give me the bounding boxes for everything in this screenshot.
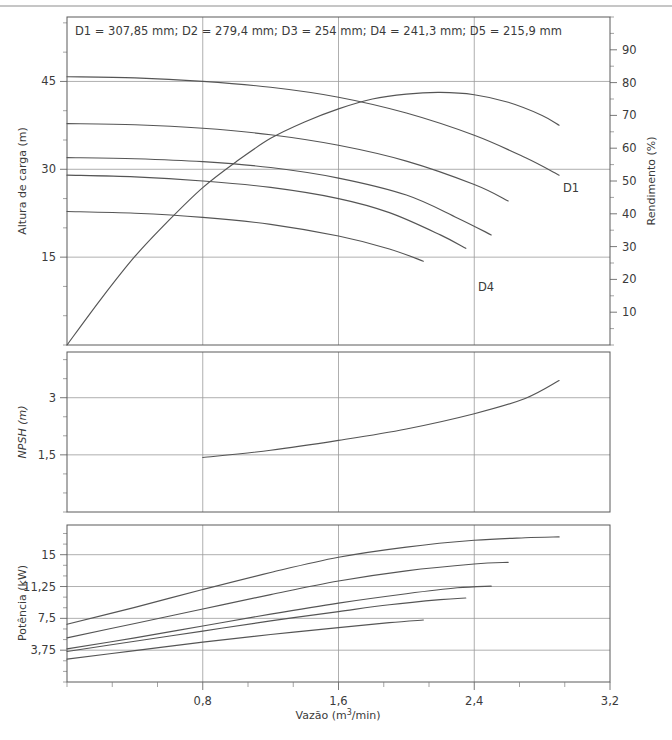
curve-label-d4: D4: [478, 280, 494, 294]
panel-power-ticks: [60, 533, 67, 682]
power-tick-7-5: 7,5: [38, 611, 56, 625]
head-tick-45: 45: [41, 74, 56, 88]
panel-npsh-ticks: [60, 360, 67, 512]
panel-npsh: NPSH (m) 1,53: [16, 352, 610, 512]
efficiency-tick-30: 30: [622, 240, 637, 254]
panel-npsh-curves: [203, 381, 559, 458]
x-axis-title: Vazão (m3/min): [295, 708, 380, 722]
panel-power: Potência (kW) 3,757,511,2515: [16, 525, 610, 682]
x-axis-title-main: Vazão (m: [295, 709, 346, 722]
npsh-axis-tick-labels: 1,53: [38, 391, 56, 462]
curve-head-rendimento: [67, 92, 559, 345]
impeller-diameter-note: D1 = 307,85 mm; D2 = 279,4 mm; D3 = 254 …: [75, 24, 562, 38]
npsh-tick-1-5: 1,5: [38, 448, 56, 462]
efficiency-tick-90: 90: [622, 43, 637, 57]
x-axis-ticks: [67, 682, 610, 690]
curve-head-d5: [67, 211, 423, 261]
x-tick-3-2: 3,2: [601, 694, 619, 708]
power-axis-title: Potência (kW): [16, 565, 29, 641]
power-tick-15: 15: [41, 548, 56, 562]
x-tick-1-6: 1,6: [329, 694, 347, 708]
head-axis-title: Altura de carga (m): [16, 127, 29, 235]
x-axis: 0,81,62,43,2 Vazão (m3/min): [67, 682, 619, 722]
curve-npsh-npsh: [203, 381, 559, 458]
curve-power-d3: [67, 586, 491, 649]
chart-svg: D1 = 307,85 mm; D2 = 279,4 mm; D3 = 254 …: [0, 0, 672, 740]
pump-performance-chart: D1 = 307,85 mm; D2 = 279,4 mm; D3 = 254 …: [0, 0, 672, 740]
head-axis-tick-labels: 153045: [41, 74, 56, 264]
efficiency-tick-60: 60: [622, 141, 637, 155]
npsh-axis-title: NPSH (m): [16, 406, 29, 459]
panel-head: D1 = 307,85 mm; D2 = 279,4 mm; D3 = 254 …: [16, 17, 658, 345]
panel-power-curves: [67, 537, 559, 659]
curve-power-d5: [67, 620, 423, 659]
efficiency-tick-80: 80: [622, 76, 637, 90]
curve-power-d1: [67, 537, 559, 624]
head-tick-30: 30: [41, 162, 56, 176]
panel-head-gridlines: [67, 17, 610, 345]
npsh-tick-3: 3: [49, 391, 56, 405]
efficiency-tick-50: 50: [622, 174, 637, 188]
efficiency-axis-title: Rendimento (%): [645, 137, 658, 226]
efficiency-tick-10: 10: [622, 305, 637, 319]
efficiency-axis-tick-labels: 102030405060708090: [622, 43, 637, 319]
curve-head-d1: [67, 77, 559, 175]
x-axis-tick-labels: 0,81,62,43,2: [194, 694, 620, 708]
efficiency-tick-20: 20: [622, 272, 637, 286]
x-tick-0-8: 0,8: [194, 694, 212, 708]
efficiency-tick-40: 40: [622, 207, 637, 221]
head-tick-15: 15: [41, 250, 56, 264]
panel-npsh-gridlines: [67, 352, 610, 512]
efficiency-tick-70: 70: [622, 108, 637, 122]
x-tick-2-4: 2,4: [465, 694, 483, 708]
panel-head-curves: [67, 77, 559, 345]
curve-head-d4: [67, 175, 466, 248]
curve-label-d1: D1: [563, 181, 579, 195]
power-tick-11-25: 11,25: [23, 580, 56, 594]
power-tick-3-75: 3,75: [30, 643, 56, 657]
